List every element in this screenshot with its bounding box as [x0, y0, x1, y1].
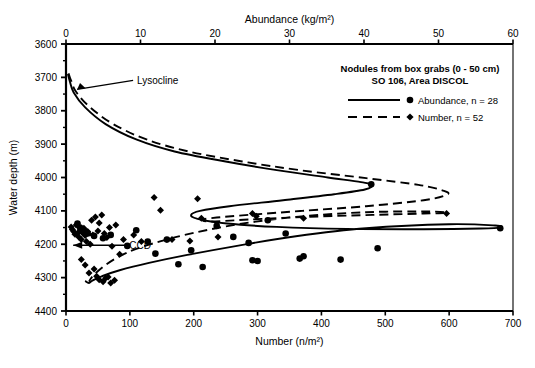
number-data-point: [443, 210, 450, 217]
bottom-axis-tick-label: 200: [185, 318, 202, 329]
number-data-point: [120, 236, 127, 243]
bottom-axis-title: Number (n/m²): [255, 335, 323, 347]
legend-label-abundance: Abundance, n = 28: [418, 95, 498, 106]
abundance-data-point: [213, 223, 220, 230]
number-data-point: [194, 195, 201, 202]
bottom-axis-tick-label: 600: [441, 318, 458, 329]
ccd-arrowhead: [73, 242, 82, 249]
number-data-point: [112, 221, 119, 228]
y-axis-tick-label: 3600: [35, 39, 58, 50]
number-data-point: [108, 243, 115, 250]
number-trend-curve: [69, 73, 449, 281]
legend-label-number: Number, n = 52: [418, 112, 483, 123]
abundance-data-point: [188, 247, 195, 254]
lysocline-label: Lysocline: [137, 75, 179, 86]
number-data-point: [82, 261, 89, 268]
top-axis-title: Abundance (kg/m²): [245, 13, 334, 25]
bottom-axis-tick-label: 300: [249, 318, 266, 329]
top-axis-tick-label: 50: [433, 28, 445, 39]
abundance-data-point: [264, 217, 271, 224]
bottom-axis-tick-label: 700: [505, 318, 522, 329]
top-axis-tick-label: 20: [209, 28, 221, 39]
y-axis-tick-label: 4300: [35, 272, 58, 283]
abundance-data-point: [254, 258, 261, 265]
abundance-data-point: [199, 264, 206, 271]
y-axis-tick-label: 4100: [35, 205, 58, 216]
top-axis-tick-label: 60: [507, 28, 519, 39]
y-axis-title: Water depth (m): [7, 140, 19, 215]
top-axis-tick-label: 0: [63, 28, 69, 39]
number-data-point: [116, 251, 123, 258]
legend-circle-marker: [407, 97, 414, 104]
legend-diamond-marker: [406, 113, 413, 120]
abundance-data-point: [282, 230, 289, 237]
number-data-point: [98, 211, 105, 218]
y-axis-tick-label: 4000: [35, 172, 58, 183]
abundance-data-point: [300, 253, 307, 260]
number-data-point: [157, 207, 164, 214]
y-axis-tick-label: 3700: [35, 72, 58, 83]
figure-container: 0102030405060010020030040050060070036003…: [0, 0, 535, 368]
number-data-point: [85, 269, 92, 276]
number-data-point: [106, 224, 113, 231]
abundance-data-point: [245, 240, 252, 247]
chart-annotations: LysoclineCCD: [73, 75, 179, 251]
top-axis-tick-label: 40: [358, 28, 370, 39]
chart-legend: Nodules from box grabs (0 - 50 cm)SO 106…: [341, 63, 500, 123]
top-axis-tick-label: 30: [284, 28, 296, 39]
number-data-point: [96, 219, 103, 226]
abundance-data-point: [337, 256, 344, 263]
number-data-point: [78, 256, 85, 263]
y-axis-tick-label: 3800: [35, 105, 58, 116]
abundance-data-point: [497, 225, 504, 232]
bottom-axis-tick-label: 0: [63, 318, 69, 329]
number-data-point: [186, 237, 193, 244]
y-axis-tick-label: 3900: [35, 139, 58, 150]
abundance-data-point: [152, 250, 159, 257]
lysocline-leader-line: [77, 80, 133, 89]
bottom-axis-tick-label: 400: [313, 318, 330, 329]
bottom-axis-tick-label: 100: [122, 318, 139, 329]
top-axis-tick-label: 10: [135, 28, 147, 39]
y-axis-tick-label: 4200: [35, 239, 58, 250]
number-data-point: [151, 194, 158, 201]
ccd-label: CCD: [129, 240, 151, 251]
abundance-data-point: [368, 181, 375, 188]
legend-title-line2: SO 106, Area DISCOL: [372, 75, 469, 86]
y-axis-tick-label: 4400: [35, 306, 58, 317]
number-data-point: [214, 233, 221, 240]
nodule-abundance-depth-chart: 0102030405060010020030040050060070036003…: [0, 0, 535, 368]
abundance-data-point: [230, 234, 237, 241]
abundance-data-point: [374, 245, 381, 252]
abundance-data-point: [175, 261, 182, 268]
legend-title-line1: Nodules from box grabs (0 - 50 cm): [341, 63, 500, 74]
bottom-axis-tick-label: 500: [377, 318, 394, 329]
